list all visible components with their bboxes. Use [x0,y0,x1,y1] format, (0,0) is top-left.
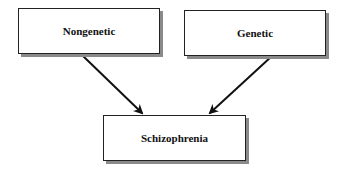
node-nongenetic: Nongenetic [18,8,160,54]
node-label: Genetic [237,27,273,39]
arrow-genetic-to-schizophrenia [210,56,272,113]
node-label: Schizophrenia [141,132,208,144]
node-genetic: Genetic [184,10,326,56]
node-label: Nongenetic [63,25,116,37]
arrow-nongenetic-to-schizophrenia [83,56,142,113]
node-schizophrenia: Schizophrenia [103,115,246,161]
